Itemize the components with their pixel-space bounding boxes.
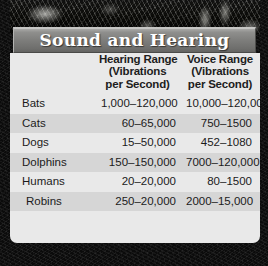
table-row: Robins 250–20,000 2000–15,000 xyxy=(10,192,260,212)
page-title: Sound and Hearing xyxy=(40,32,230,49)
table-row: Bats 1,000–120,000 10,000–120,000 xyxy=(10,94,260,114)
cell-animal: Cats xyxy=(10,114,95,134)
header-row: Hearing Range (Vibrations per Second) Vo… xyxy=(10,53,260,94)
sound-and-hearing-table-figure: Sound and Hearing Hearing Range (Vibrati… xyxy=(0,0,268,266)
column-header-animal xyxy=(10,53,95,94)
voice-header-line-1: Voice Range xyxy=(184,53,256,65)
table-body: Bats 1,000–120,000 10,000–120,000 Cats 6… xyxy=(10,94,260,211)
cell-voice-range: 7000–120,000 xyxy=(180,153,260,173)
cell-voice-range: 452–1080 xyxy=(180,133,260,153)
table-row: Cats 60–65,000 750–1500 xyxy=(10,114,260,134)
cell-voice-range: 750–1500 xyxy=(180,114,260,134)
cell-hearing-range: 150–150,000 xyxy=(95,153,180,173)
cell-voice-range: 2000–15,000 xyxy=(180,192,260,212)
table-row: Dolphins 150–150,000 7000–120,000 xyxy=(10,153,260,173)
cell-animal: Dolphins xyxy=(10,153,95,173)
cell-hearing-range: 20–20,000 xyxy=(95,172,180,192)
cell-hearing-range: 250–20,000 xyxy=(95,192,180,212)
cell-hearing-range: 1,000–120,000 xyxy=(95,94,180,114)
cell-voice-range: 80–1500 xyxy=(180,172,260,192)
cell-animal: Robins xyxy=(10,192,95,212)
column-header-voice-range: Voice Range (Vibrations per Second) xyxy=(180,53,260,94)
hearing-header-line-1: Hearing Range xyxy=(99,53,176,65)
cell-animal: Dogs xyxy=(10,133,95,153)
cell-animal: Bats xyxy=(10,94,95,114)
voice-header-line-2: (Vibrations xyxy=(184,65,256,77)
voice-header-line-3: per Second) xyxy=(184,78,256,90)
cell-hearing-range: 60–65,000 xyxy=(95,114,180,134)
cell-voice-range: 10,000–120,000 xyxy=(180,94,260,114)
table-row: Dogs 15–50,000 452–1080 xyxy=(10,133,260,153)
table-row: Humans 20–20,000 80–1500 xyxy=(10,172,260,192)
table-card: Hearing Range (Vibrations per Second) Vo… xyxy=(10,53,260,243)
title-bar: Sound and Hearing xyxy=(13,27,256,53)
sound-hearing-table: Hearing Range (Vibrations per Second) Vo… xyxy=(10,53,260,211)
cell-animal: Humans xyxy=(10,172,95,192)
table-header: Hearing Range (Vibrations per Second) Vo… xyxy=(10,53,260,94)
hearing-header-line-3: per Second) xyxy=(99,78,176,90)
hearing-header-line-2: (Vibrations xyxy=(99,65,176,77)
column-header-hearing-range: Hearing Range (Vibrations per Second) xyxy=(95,53,180,94)
cell-hearing-range: 15–50,000 xyxy=(95,133,180,153)
